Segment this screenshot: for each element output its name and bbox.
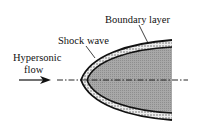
flow-label-line2: flow (24, 64, 43, 75)
shock-wave-leader (86, 46, 95, 58)
boundary-layer-leader (139, 25, 148, 43)
boundary-layer-label: Boundary layer (105, 14, 170, 25)
flow-label-line1: Hypersonic (13, 52, 61, 63)
shock-wave-label: Shock wave (58, 35, 109, 46)
